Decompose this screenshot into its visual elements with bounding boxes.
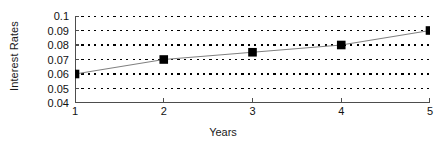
plot-svg	[75, 16, 430, 103]
plot-area	[75, 16, 430, 103]
data-point-marker	[75, 70, 79, 79]
interest-rates-line-chart: Interest Rates 0.040.050.060.070.080.090…	[0, 0, 446, 150]
x-axis-tick-label: 2	[161, 106, 167, 117]
data-point-marker	[337, 41, 346, 50]
data-point-marker	[426, 26, 430, 35]
y-axis-tick-label: 0.05	[48, 83, 69, 94]
y-axis-label-text: Interest Rates	[8, 21, 20, 91]
y-axis-tick-label: 0.04	[48, 98, 69, 109]
x-axis-tick-label: 1	[72, 106, 78, 117]
x-axis-tick-labels: 12345	[75, 106, 430, 124]
y-axis-tick-label: 0.06	[48, 69, 69, 80]
y-axis-label: Interest Rates	[0, 0, 28, 112]
x-axis-tick-label: 3	[249, 106, 255, 117]
data-point-marker	[248, 48, 257, 57]
y-axis-tick-label: 0.09	[48, 25, 69, 36]
x-axis-tick-label: 4	[338, 106, 344, 117]
y-axis-tick-label: 0.07	[48, 54, 69, 65]
x-axis-tick-label: 5	[427, 106, 433, 117]
x-axis-label: Years	[0, 126, 446, 138]
y-axis-tick-labels: 0.040.050.060.070.080.090.1	[26, 0, 72, 112]
data-point-marker	[159, 55, 168, 64]
y-axis-tick-label: 0.08	[48, 40, 69, 51]
y-axis-tick-label: 0.1	[54, 11, 69, 22]
